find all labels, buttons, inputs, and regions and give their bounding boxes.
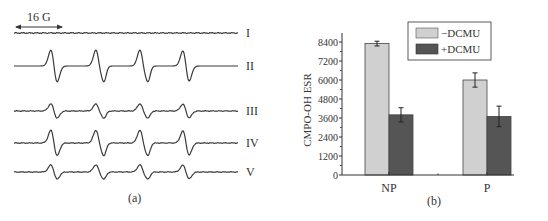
y-axis-label: CMPO-OH ESR <box>301 73 313 147</box>
bar-NP-minus-dcmu <box>365 44 389 175</box>
y-tick-label: 2400 <box>318 132 338 143</box>
legend-label-plus-dcmu: +DCMU <box>441 43 480 55</box>
x-tick-label-P: P <box>484 181 491 195</box>
bar-chart-panel: CMPO-OH ESR 0120024003600480060007200840… <box>0 0 548 221</box>
y-tick-label: 0 <box>333 170 338 181</box>
bar-P-minus-dcmu <box>463 80 487 175</box>
legend-label-minus-dcmu: −DCMU <box>441 27 480 39</box>
y-tick-label: 6000 <box>318 75 338 86</box>
y-tick-label: 3600 <box>318 113 338 124</box>
y-tick-label: 1200 <box>318 151 338 162</box>
x-tick-label-NP: NP <box>381 181 397 195</box>
panel-b-caption: (b) <box>427 194 441 208</box>
y-tick-label: 4800 <box>318 94 338 105</box>
y-tick-label: 7200 <box>318 56 338 67</box>
y-tick-label: 8400 <box>318 37 338 48</box>
bar-NP-plus-dcmu <box>389 115 413 175</box>
legend: −DCMU +DCMU <box>408 22 491 60</box>
legend-swatch-minus-dcmu <box>416 28 438 38</box>
legend-swatch-plus-dcmu <box>416 44 438 54</box>
